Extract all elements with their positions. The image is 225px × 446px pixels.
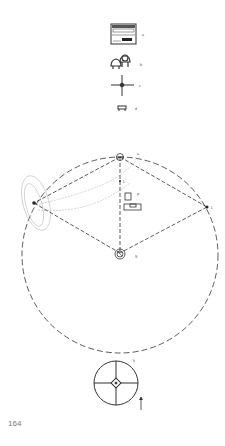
right-speaker-marker xyxy=(206,206,209,209)
arrow-icon xyxy=(140,397,143,410)
page-number: 164 xyxy=(8,419,21,428)
crosshair-icon xyxy=(111,75,134,96)
legend-label-a: a xyxy=(142,33,144,37)
left-speaker-marker xyxy=(32,201,36,205)
chairs-icon xyxy=(111,55,130,69)
center-point-marker xyxy=(119,180,121,182)
small-table-icon xyxy=(118,106,126,111)
small-quad-diagram xyxy=(94,361,138,405)
label-bottom: S xyxy=(135,255,138,259)
diagram-canvas: a b c d a xyxy=(0,0,225,446)
dispersion-curves xyxy=(16,157,136,233)
label-right: L xyxy=(211,206,213,210)
legend-label-b: b xyxy=(140,63,142,67)
listening-circle xyxy=(22,157,218,353)
equipment-rack-icon xyxy=(111,24,136,44)
label-desk: P xyxy=(137,193,140,197)
label-top: a xyxy=(137,152,139,156)
sight-lines xyxy=(34,157,207,253)
legend-label-d: d xyxy=(135,107,137,111)
legend-label-c: c xyxy=(139,84,141,88)
label-center: L xyxy=(123,180,125,184)
label-h: h xyxy=(133,359,135,363)
